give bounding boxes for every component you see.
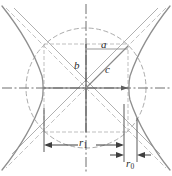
hyperbola-figure: a b c r1 r0 (0, 0, 172, 176)
label-r0-base: r (126, 157, 130, 169)
label-c: c (105, 64, 110, 75)
dimension-extension-lines (44, 104, 137, 162)
label-r1-subscript: 1 (84, 141, 88, 150)
r0-arrowhead-pointing-right (116, 152, 124, 158)
label-r0-subscript: 0 (131, 162, 135, 171)
r1-arrowhead-left (44, 142, 52, 148)
r1-arrowhead-right (116, 142, 124, 148)
label-r0: r0 (126, 158, 134, 169)
label-r1: r1 (79, 137, 87, 148)
r0-arrowhead-pointing-left (137, 152, 145, 158)
label-b: b (74, 60, 80, 71)
axis-arrow-right (121, 86, 128, 91)
asymptote-solid-b (12, 8, 158, 154)
label-a: a (101, 39, 107, 50)
label-r1-base: r (79, 136, 83, 148)
